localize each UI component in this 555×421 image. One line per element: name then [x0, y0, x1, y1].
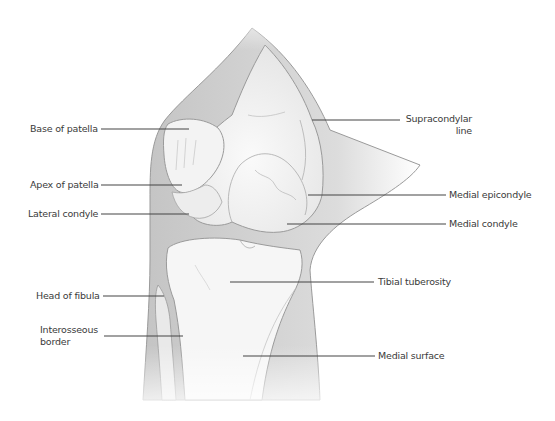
- knee-anatomy-diagram: Base of patella Apex of patella Lateral …: [0, 0, 555, 421]
- label-base-of-patella: Base of patella: [30, 123, 98, 135]
- label-apex-of-patella: Apex of patella: [30, 179, 99, 191]
- label-line: Interosseous: [40, 324, 98, 336]
- label-medial-surface: Medial surface: [378, 350, 445, 362]
- label-medial-condyle: Medial condyle: [449, 218, 518, 230]
- label-line: line: [405, 125, 472, 137]
- label-tibial-tuberosity: Tibial tuberosity: [378, 276, 451, 288]
- label-lateral-condyle: Lateral condyle: [28, 208, 98, 220]
- label-interosseous-border: Interosseous border: [40, 324, 98, 348]
- label-line: Supracondylar: [405, 113, 472, 125]
- label-line: border: [40, 336, 98, 348]
- label-medial-epicondyle: Medial epicondyle: [449, 189, 532, 201]
- label-supracondylar-line: Supracondylar line: [405, 113, 472, 137]
- label-head-of-fibula: Head of fibula: [36, 290, 100, 302]
